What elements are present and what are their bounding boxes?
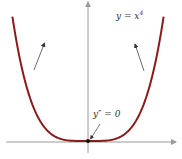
right-concavity-arrow bbox=[135, 44, 144, 71]
inflection-pointer-arrow bbox=[91, 124, 101, 139]
graph-canvas: y = x4 y″ = 0 bbox=[0, 0, 182, 159]
function-label-base: y = x bbox=[115, 11, 139, 21]
origin-point bbox=[86, 139, 90, 143]
inflection-label: y″ = 0 bbox=[92, 109, 121, 119]
function-label-exponent: 4 bbox=[138, 9, 143, 16]
left-concavity-arrow bbox=[34, 43, 45, 70]
function-label: y = x4 bbox=[115, 9, 143, 21]
